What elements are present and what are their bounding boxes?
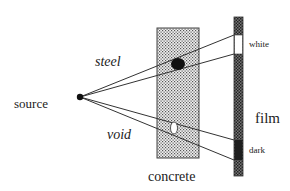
steel-bar	[171, 58, 185, 70]
label-source: source	[14, 97, 48, 110]
label-dark: dark	[249, 146, 265, 155]
void	[171, 122, 178, 134]
source-point	[77, 94, 83, 100]
film-white-section	[235, 35, 243, 54]
label-concrete: concrete	[148, 170, 195, 184]
label-white: white	[249, 40, 269, 49]
radiography-diagram: steel void source concrete film white da…	[0, 0, 290, 191]
label-film: film	[255, 111, 280, 126]
label-steel: steel	[95, 55, 121, 69]
label-void: void	[107, 128, 131, 142]
concrete-slab	[157, 28, 199, 158]
film-dark-section	[235, 140, 243, 160]
